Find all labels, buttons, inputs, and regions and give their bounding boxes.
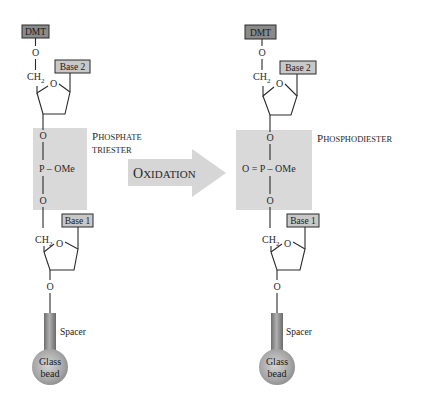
- base-2-left: Base 2: [55, 60, 90, 73]
- ch2-lower-right: CH2: [262, 234, 280, 248]
- oxidation-arrow: OXIDATION: [128, 149, 226, 197]
- svg-text:Base 2: Base 2: [285, 63, 311, 73]
- phosphate-oxygen-bottom-right: O: [266, 195, 273, 206]
- phosphodiester-label: PHOSPHODIESTER: [317, 132, 392, 144]
- base-2-right: Base 2: [280, 61, 316, 74]
- ring-oxygen-lower-left: O: [56, 238, 63, 249]
- dmt-label-left: DMT: [25, 27, 46, 37]
- phosphorus-double-bond-ome-right: O = P – OMe: [242, 163, 296, 174]
- svg-text:Base 2: Base 2: [60, 62, 86, 72]
- spacer-left: [44, 313, 56, 355]
- glass-bead-label-left-1: Glass: [39, 356, 61, 367]
- phosphodiester-molecule: DMT O CH2 O Base 2 O O = P – OMe O PHOSP…: [236, 25, 392, 385]
- glass-bead-right: [259, 349, 295, 385]
- ch2-upper-left: CH2: [27, 71, 45, 85]
- phosphate-triester-label-line1: PHOSPHATE: [92, 130, 142, 142]
- svg-text:Base 1: Base 1: [290, 216, 316, 226]
- svg-text:Base 1: Base 1: [65, 216, 91, 226]
- oxygen-3prime-left: O: [46, 281, 53, 292]
- spacer-label-right: Spacer: [286, 327, 313, 337]
- oxygen-3prime-right: O: [273, 281, 280, 292]
- glass-bead-label-right-1: Glass: [266, 356, 288, 367]
- phosphate-triester-molecule: DMT O CH2 O Base 2 O P – OMe O PHOSPHATE…: [22, 25, 142, 385]
- dmt-label-right: DMT: [250, 28, 271, 38]
- glass-bead-label-right-2: bead: [268, 368, 287, 379]
- oxygen-5prime-left: O: [32, 47, 39, 58]
- spacer-right: [271, 313, 283, 355]
- dmt-group-right: DMT: [245, 25, 276, 39]
- phosphorus-ome-left: P – OMe: [39, 163, 75, 174]
- phosphate-triester-label-line2: TRIESTER: [92, 145, 132, 155]
- oxidation-label: OXIDATION: [133, 166, 196, 181]
- glass-bead-label-left-2: bead: [41, 368, 60, 379]
- ch2-lower-left: CH2: [35, 234, 53, 248]
- phosphate-oxygen-top-right: O: [266, 132, 273, 143]
- ring-oxygen-upper-left: O: [50, 78, 57, 89]
- ring-oxygen-upper-right: O: [276, 78, 283, 89]
- base-1-left: Base 1: [62, 214, 93, 227]
- ring-oxygen-lower-right: O: [284, 238, 291, 249]
- oxygen-5prime-right: O: [258, 47, 265, 58]
- spacer-label-left: Spacer: [60, 327, 87, 337]
- phosphate-oxygen-bottom-left: O: [39, 195, 46, 206]
- dmt-group-left: DMT: [22, 25, 49, 38]
- base-1-right: Base 1: [287, 214, 319, 227]
- glass-bead-left: [32, 349, 68, 385]
- oxidation-diagram: DMT O CH2 O Base 2 O P – OMe O PHOSPHATE…: [0, 0, 438, 394]
- ch2-upper-right: CH2: [253, 71, 271, 85]
- phosphate-oxygen-top-left: O: [39, 130, 46, 141]
